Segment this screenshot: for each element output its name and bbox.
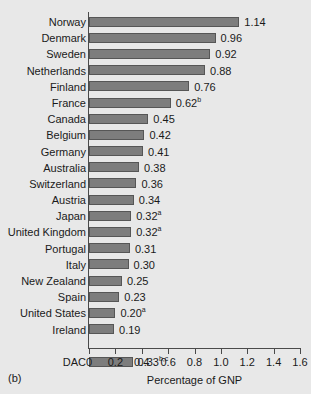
bar-row: DAC0.33b,c (0, 354, 311, 370)
category-label: Norway (49, 14, 86, 30)
bar-value-label: 0.32a (136, 224, 161, 240)
bar-value-label: 0.41 (148, 144, 169, 160)
bar (89, 114, 148, 124)
bar-row: Germany0.41 (0, 144, 311, 160)
bar-row: Italy0.30 (0, 257, 311, 273)
footnote-marker: b (197, 96, 201, 103)
bar (89, 292, 119, 302)
x-tick-label: 0.4 (134, 356, 149, 368)
x-tick (142, 349, 143, 354)
x-tick-label: 1.4 (266, 356, 281, 368)
bar-row: Australia0.38 (0, 160, 311, 176)
bar-value-label: 0.38 (144, 160, 165, 176)
bar-value-label: 0.42 (149, 127, 170, 143)
category-label: Japan (56, 208, 86, 224)
bar-value-label: 0.36 (141, 176, 162, 192)
category-label: Portugal (45, 241, 86, 257)
bar (89, 17, 239, 27)
footnote-marker: a (158, 210, 162, 217)
bar-row: Switzerland0.36 (0, 176, 311, 192)
x-tick-label: 1.6 (292, 356, 307, 368)
category-label: Ireland (52, 322, 86, 338)
category-label: Sweden (46, 46, 86, 62)
footnote-marker: a (142, 307, 146, 314)
x-tick-label: 0.8 (187, 356, 202, 368)
category-label: DAC (63, 354, 86, 370)
bar-row: France0.62b (0, 95, 311, 111)
x-tick-label: 0.6 (160, 356, 175, 368)
panel-label: (b) (8, 372, 21, 384)
bar-value-label: 0.19 (119, 322, 140, 338)
bar (89, 81, 189, 91)
bar-value-label: 0.45 (153, 111, 174, 127)
x-axis-title: Percentage of GNP (88, 374, 301, 386)
bar-row: Canada0.45 (0, 111, 311, 127)
category-label: Italy (66, 257, 86, 273)
bar-rows: Norway1.14Denmark0.96Sweden0.92Netherlan… (0, 14, 311, 370)
bar-row: Portugal0.31 (0, 241, 311, 257)
bar-value-label: 1.14 (244, 14, 265, 30)
bar-value-label: 0.20a (120, 305, 145, 321)
bar (89, 308, 115, 318)
bar-value-label: 0.25 (127, 273, 148, 289)
category-label: Finland (50, 79, 86, 95)
category-label: Austria (52, 192, 86, 208)
bar (89, 49, 210, 59)
category-label: Canada (47, 111, 86, 127)
x-tick (89, 349, 90, 354)
bar (89, 146, 143, 156)
bar-row: Austria0.34 (0, 192, 311, 208)
bar (89, 259, 129, 269)
bar-row: Spain0.23 (0, 289, 311, 305)
bar-value-label: 0.34 (139, 192, 160, 208)
bar-row: Japan0.32a (0, 208, 311, 224)
category-label: France (52, 95, 86, 111)
bar-row: Ireland0.19 (0, 322, 311, 338)
bar-value-label: 0.31 (135, 241, 156, 257)
bar-value-label: 0.88 (210, 63, 231, 79)
bar (89, 130, 144, 140)
category-label: Australia (43, 160, 86, 176)
bar-row: Belgium0.42 (0, 127, 311, 143)
x-tick (168, 349, 169, 354)
bar (89, 211, 131, 221)
x-tick-label: 0.2 (108, 356, 123, 368)
x-tick (195, 349, 196, 354)
category-label: Switzerland (29, 176, 86, 192)
bar-row: Netherlands0.88 (0, 63, 311, 79)
x-tick-label: 0 (86, 356, 92, 368)
bar-row: United Kingdom0.32a (0, 224, 311, 240)
category-label: Denmark (41, 30, 86, 46)
bar (89, 195, 134, 205)
bar-value-label: 0.76 (194, 79, 215, 95)
bar-value-label: 0.92 (215, 46, 236, 62)
bar-row: United States0.20a (0, 305, 311, 321)
bar-value-label: 0.23 (124, 289, 145, 305)
category-label: Netherlands (27, 63, 86, 79)
x-tick (221, 349, 222, 354)
bar (89, 162, 139, 172)
bar (89, 33, 216, 43)
bar-value-label: 0.96 (221, 30, 242, 46)
bar-row: Denmark0.96 (0, 30, 311, 46)
x-tick (247, 349, 248, 354)
bar (89, 227, 131, 237)
bar (89, 324, 114, 334)
category-label: Spain (58, 289, 86, 305)
footnote-marker: a (158, 226, 162, 233)
plot-area: Norway1.14Denmark0.96Sweden0.92Netherlan… (0, 0, 311, 394)
category-label: United Kingdom (8, 224, 86, 240)
bar (89, 243, 130, 253)
bar-row: Norway1.14 (0, 14, 311, 30)
category-label: Belgium (46, 127, 86, 143)
x-tick-label: 1.0 (213, 356, 228, 368)
bar-value-label: 0.62b (176, 95, 201, 111)
category-label: Germany (41, 144, 86, 160)
x-tick (274, 349, 275, 354)
bar (89, 65, 205, 75)
bar-value-label: 0.32a (136, 208, 161, 224)
bar-value-label: 0.30 (134, 257, 155, 273)
x-tick (300, 349, 301, 354)
bar-row: Finland0.76 (0, 79, 311, 95)
bar (89, 98, 171, 108)
